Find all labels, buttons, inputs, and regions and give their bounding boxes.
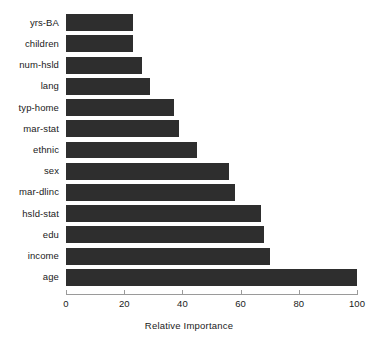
bar-row: yrs-BA bbox=[66, 14, 357, 31]
y-axis-label-lang: lang bbox=[41, 81, 59, 91]
x-axis-tick-60 bbox=[241, 290, 242, 295]
bar-typ-home bbox=[66, 99, 174, 116]
x-axis-title: Relative Importance bbox=[0, 320, 378, 331]
bar-age bbox=[66, 269, 357, 286]
y-axis-label-edu: edu bbox=[43, 230, 59, 240]
x-axis-tick-100 bbox=[357, 290, 358, 295]
bar-row: edu bbox=[66, 226, 357, 243]
y-axis-label-mar-dlinc: mar-dlinc bbox=[19, 187, 59, 197]
bar-children bbox=[66, 35, 133, 52]
bar-row: lang bbox=[66, 78, 357, 95]
bar-row: typ-home bbox=[66, 99, 357, 116]
bar-mar-stat bbox=[66, 120, 179, 137]
bar-row: ethnic bbox=[66, 142, 357, 159]
x-axis-tick-0 bbox=[66, 290, 67, 295]
bar-row: age bbox=[66, 269, 357, 286]
bar-num-hsld bbox=[66, 57, 142, 74]
bar-row: num-hsld bbox=[66, 57, 357, 74]
x-axis-tick-label-0: 0 bbox=[63, 298, 68, 309]
x-axis-tick-label-100: 100 bbox=[349, 298, 365, 309]
y-axis-label-sex: sex bbox=[44, 166, 59, 176]
bar-edu bbox=[66, 226, 264, 243]
y-axis-label-yrs-BA: yrs-BA bbox=[30, 18, 59, 28]
bar-row: mar-dlinc bbox=[66, 184, 357, 201]
bar-ethnic bbox=[66, 142, 197, 159]
y-axis-label-children: children bbox=[25, 39, 59, 49]
bar-row: children bbox=[66, 35, 357, 52]
x-axis-tick-label-80: 80 bbox=[294, 298, 305, 309]
y-axis-label-num-hsld: num-hsld bbox=[19, 60, 59, 70]
bar-row: hsld-stat bbox=[66, 205, 357, 222]
x-axis-tick-40 bbox=[182, 290, 183, 295]
x-axis-line bbox=[66, 294, 357, 295]
bar-row: mar-stat bbox=[66, 120, 357, 137]
plot-area: yrs-BAchildrennum-hsldlangtyp-homemar-st… bbox=[66, 12, 357, 288]
y-axis-label-income: income bbox=[28, 251, 59, 261]
bar-hsld-stat bbox=[66, 205, 261, 222]
x-axis-tick-label-60: 60 bbox=[235, 298, 246, 309]
bar-lang bbox=[66, 78, 150, 95]
bar-chart: yrs-BAchildrennum-hsldlangtyp-homemar-st… bbox=[0, 0, 378, 346]
bar-income bbox=[66, 248, 270, 265]
y-axis-label-ethnic: ethnic bbox=[33, 145, 59, 155]
y-axis-label-age: age bbox=[43, 272, 59, 282]
bar-sex bbox=[66, 163, 229, 180]
x-axis-tick-20 bbox=[124, 290, 125, 295]
y-axis-label-typ-home: typ-home bbox=[19, 103, 59, 113]
y-axis-label-mar-stat: mar-stat bbox=[23, 124, 59, 134]
bar-row: income bbox=[66, 248, 357, 265]
bar-mar-dlinc bbox=[66, 184, 235, 201]
x-axis-tick-label-20: 20 bbox=[119, 298, 130, 309]
bar-row: sex bbox=[66, 163, 357, 180]
x-axis-tick-label-40: 40 bbox=[177, 298, 188, 309]
y-axis-label-hsld-stat: hsld-stat bbox=[22, 209, 59, 219]
x-axis-tick-80 bbox=[299, 290, 300, 295]
bar-yrs-BA bbox=[66, 14, 133, 31]
